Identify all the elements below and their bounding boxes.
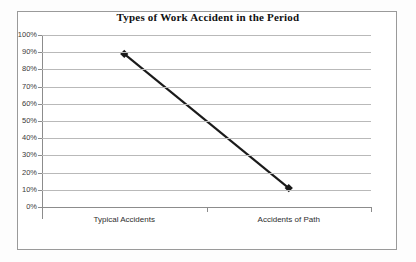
chart-figure: Types of Work Accident in the Period 100…: [0, 0, 416, 262]
y-axis-tick: [38, 207, 42, 208]
plot-area: [42, 35, 371, 207]
y-axis-tick: [38, 69, 42, 70]
y-axis-tick: [38, 35, 42, 36]
y-axis-tick: [38, 52, 42, 53]
gridline: [42, 35, 371, 36]
x-axis-category-label: Accidents of Path: [207, 215, 372, 224]
y-axis-tick: [38, 121, 42, 122]
y-axis-tick: [38, 138, 42, 139]
y-axis-tick: [38, 190, 42, 191]
y-axis-tick: [38, 155, 42, 156]
gridline: [42, 121, 371, 122]
gridline: [42, 138, 371, 139]
gridline: [42, 155, 371, 156]
gridline: [42, 104, 371, 105]
y-axis-tick: [38, 87, 42, 88]
x-axis-end-tick: [371, 207, 372, 212]
gridline: [42, 87, 371, 88]
y-axis-tick: [38, 104, 42, 105]
x-axis-mid-tick: [207, 207, 208, 212]
x-axis-labels: Typical AccidentsAccidents of Path: [42, 215, 371, 224]
gridline: [42, 190, 371, 191]
chart-title: Types of Work Accident in the Period: [0, 11, 416, 23]
gridline: [42, 69, 371, 70]
y-axis-tick: [38, 173, 42, 174]
gridline: [42, 52, 371, 53]
x-axis-category-label: Typical Accidents: [42, 215, 207, 224]
gridline: [42, 173, 371, 174]
